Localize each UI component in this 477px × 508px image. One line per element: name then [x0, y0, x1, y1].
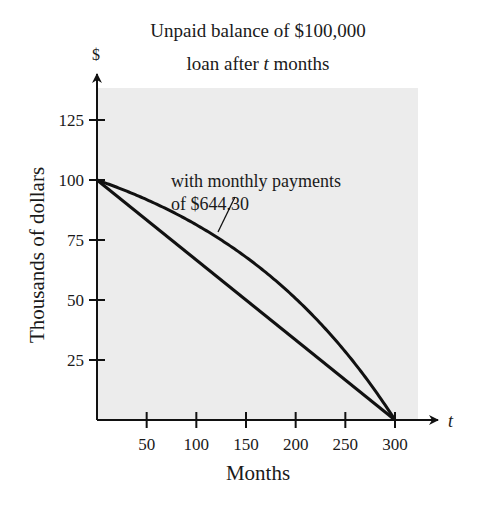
y-tick-label: 125	[59, 111, 85, 130]
annotation-line1: with monthly payments	[171, 171, 341, 191]
x-tick-label: 100	[184, 435, 210, 454]
chart: Unpaid balance of $100,000 loan after t …	[0, 0, 477, 508]
x-tick-label: 50	[138, 435, 155, 454]
y-tick-label: 75	[67, 231, 84, 250]
chart-title-line2: loan after t months	[187, 53, 330, 74]
x-tick-label: 300	[382, 435, 408, 454]
y-axis-label: Thousands of dollars	[25, 167, 49, 343]
x-axis-variable: t	[448, 411, 454, 431]
y-tick-label: 50	[67, 291, 84, 310]
x-axis-label: Months	[226, 461, 290, 485]
x-tick-label: 200	[283, 435, 309, 454]
plot-area	[97, 88, 418, 420]
y-tick-label: 25	[67, 351, 84, 370]
chart-title-line1: Unpaid balance of $100,000	[150, 20, 365, 41]
y-axis-unit: $	[92, 46, 100, 63]
x-tick-label: 250	[333, 435, 359, 454]
y-tick-label: 100	[59, 171, 85, 190]
annotation-line2: of $644.30	[171, 194, 249, 214]
x-tick-label: 150	[233, 435, 259, 454]
